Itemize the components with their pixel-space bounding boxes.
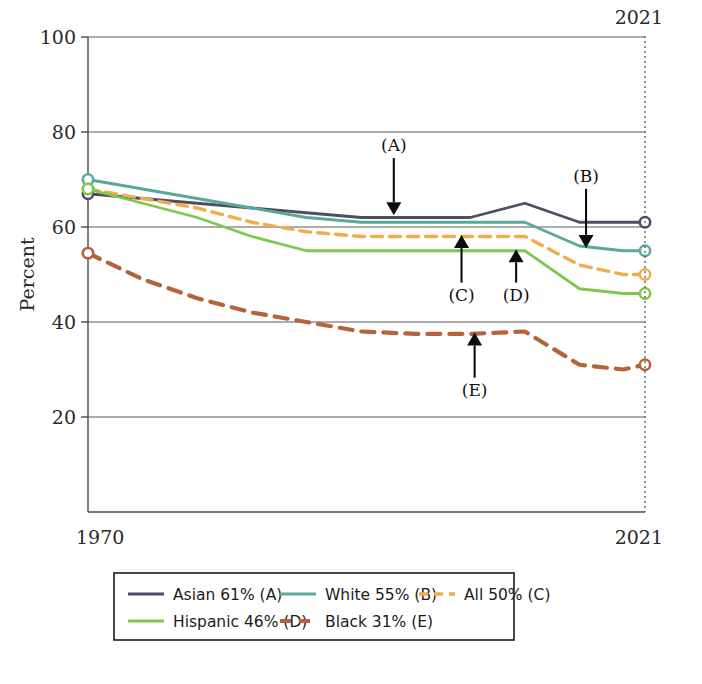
annotation-B: (B): [573, 166, 599, 248]
y-tick-label-40: 40: [52, 311, 76, 333]
annotation-label: (E): [462, 380, 488, 400]
legend-label-all: All 50% (C): [464, 586, 550, 604]
series-line-hispanic: [88, 189, 645, 294]
line-chart: Percent 2040608010019702021 (A)(B)(C)(D)…: [0, 0, 702, 684]
annotation-label: (D): [503, 285, 530, 305]
chart-container: Percent 2040608010019702021 (A)(B)(C)(D)…: [0, 0, 702, 684]
annotation-label: (C): [448, 285, 474, 305]
annotation-A: (A): [381, 135, 407, 215]
x-tick-label-start: 1970: [76, 526, 124, 548]
grid-layer: [88, 37, 645, 417]
series-line-asian: [88, 194, 645, 223]
chart-legend: Asian 61% (A)White 55% (B)All 50% (C)His…: [114, 573, 550, 640]
series-line-black: [88, 253, 645, 369]
annotation-arrowhead: [386, 202, 401, 215]
y-tick-label-100: 100: [40, 26, 76, 48]
reference-line-label: 2021: [615, 6, 663, 28]
y-axis-title: Percent: [16, 237, 38, 311]
annotation-E: (E): [462, 332, 488, 399]
series-layer: [88, 180, 645, 370]
y-tick-label-60: 60: [52, 216, 76, 238]
annotation-D: (D): [503, 249, 530, 304]
legend-label-black: Black 31% (E): [325, 613, 433, 631]
annotation-label: (B): [573, 166, 599, 186]
x-tick-label-end: 2021: [615, 526, 663, 548]
reference-line-layer: 2021: [615, 6, 663, 512]
legend-label-asian: Asian 61% (A): [173, 586, 282, 604]
annotation-C: (C): [448, 235, 474, 305]
marker-hispanic-start: [83, 184, 93, 194]
marker-black-start: [83, 248, 93, 258]
annotation-layer: (A)(B)(C)(D)(E): [381, 135, 599, 400]
y-axis-label: Percent: [16, 237, 38, 311]
y-tick-label-20: 20: [52, 406, 76, 428]
annotation-label: (A): [381, 135, 407, 155]
marker-all-end: [640, 269, 650, 279]
tick-label-layer: 2040608010019702021: [40, 26, 663, 548]
y-tick-label-80: 80: [52, 121, 76, 143]
